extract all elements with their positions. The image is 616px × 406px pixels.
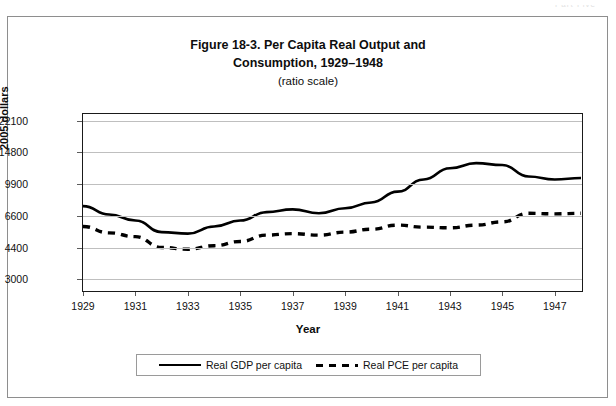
scan-artifact-text: Part Five	[555, 0, 596, 9]
x-axis-tick-mark	[502, 292, 503, 296]
x-axis-tick-mark	[293, 292, 294, 296]
gridline	[83, 248, 582, 249]
plot-frame	[82, 113, 583, 292]
x-axis-tick-label: 1933	[176, 300, 199, 312]
x-axis-tick-mark	[188, 292, 189, 296]
x-axis-tick-mark	[398, 292, 399, 296]
x-axis-tick-label: 1945	[491, 300, 514, 312]
gridline	[83, 152, 582, 153]
series-lines	[83, 114, 581, 290]
legend-swatch-solid-icon	[159, 364, 201, 366]
y-axis-tick-label: 22100	[0, 115, 28, 127]
legend-label: Real GDP per capita	[206, 359, 302, 371]
x-axis-tick-label: 1939	[333, 300, 356, 312]
legend-entry: Real PCE per capita	[316, 359, 458, 371]
x-axis-tick-label: 1931	[124, 300, 147, 312]
legend-entry: Real GDP per capita	[159, 359, 302, 371]
x-axis-tick-mark	[555, 292, 556, 296]
x-axis-tick-label: 1941	[386, 300, 409, 312]
x-axis-tick-mark	[135, 292, 136, 296]
legend-label: Real PCE per capita	[363, 359, 458, 371]
x-axis-tick-mark	[240, 292, 241, 296]
legend-swatch-dashed-icon	[316, 364, 358, 367]
x-axis-title: Year	[0, 323, 616, 335]
x-axis-tick-label: 1929	[71, 300, 94, 312]
x-axis-tick-mark	[345, 292, 346, 296]
figure-page: Part Five Figure 18-3. Per Capita Real O…	[0, 0, 616, 406]
figure-title: Figure 18-3. Per Capita Real Output and …	[0, 36, 616, 72]
y-axis-tick-label: 9900	[0, 178, 28, 190]
figure-title-line-2: Consumption, 1929–1948	[0, 54, 616, 72]
gridline	[83, 279, 582, 280]
x-axis-tick-label: 1943	[438, 300, 461, 312]
y-axis-tick-label: 14800	[0, 146, 28, 158]
x-axis-tick-label: 1947	[543, 300, 566, 312]
gridline	[83, 184, 582, 185]
plot-area	[83, 114, 582, 291]
x-axis-tick-label: 1935	[229, 300, 252, 312]
gridline	[83, 121, 582, 122]
gridline	[83, 216, 582, 217]
x-axis-tick-label: 1937	[281, 300, 304, 312]
x-axis-tick-mark	[450, 292, 451, 296]
y-axis-tick-label: 6600	[0, 210, 28, 222]
x-axis-tick-mark	[83, 292, 84, 296]
figure-title-line-1: Figure 18-3. Per Capita Real Output and	[0, 36, 616, 54]
chart-legend: Real GDP per capitaReal PCE per capita	[136, 354, 481, 376]
figure-subtitle: (ratio scale)	[0, 75, 616, 87]
y-axis-tick-label: 4400	[0, 242, 28, 254]
y-axis-tick-label: 3000	[0, 273, 28, 285]
